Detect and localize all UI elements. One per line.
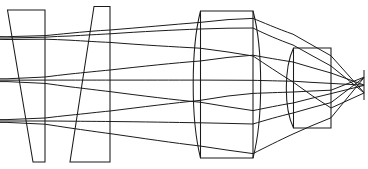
lens-element-3-thick-doublet-body bbox=[201, 11, 254, 158]
ray-bundle-upper-field bbox=[0, 18, 364, 108]
lens-element-4-left-surface-curve bbox=[286, 48, 293, 128]
optical-ray-trace-svg bbox=[0, 0, 368, 169]
lens-element-2-second-wedge bbox=[70, 7, 110, 163]
ray-lower-c bbox=[0, 78, 364, 154]
optical-diagram-root bbox=[0, 0, 368, 169]
lens-element-3-left-surface-curve bbox=[193, 11, 200, 158]
lens-element-4-rear-body bbox=[294, 48, 332, 128]
lens-element-3-right-surface-curve bbox=[253, 11, 261, 158]
ray-bundle-lower-field bbox=[0, 77, 364, 153]
ray-upper-c bbox=[0, 39, 364, 108]
lens-element-1-front-wedge bbox=[8, 10, 46, 162]
ray-upper-b bbox=[0, 28, 364, 93]
ray-axial-c bbox=[0, 82, 364, 111]
